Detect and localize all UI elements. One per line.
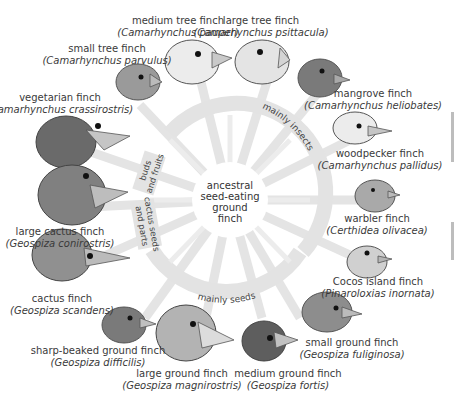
bird-large-ground-finch-icon: [156, 305, 234, 361]
finch-label-medium-ground: medium ground finch(Geospiza fortis): [234, 368, 341, 392]
bird-medium-tree-finch-icon: [165, 40, 232, 84]
finch-label-large-cactus: large cactus finch(Geospiza conirostris): [6, 226, 115, 250]
common-name: small tree finch: [42, 43, 171, 55]
ancestor-label-line: finch: [200, 213, 259, 224]
bird-warbler-finch-icon: [355, 180, 400, 212]
scientific-name: (Camarhynchus parvulus): [42, 55, 171, 67]
finch-label-woodpecker: woodpecker finch(Camarhynchus pallidus): [318, 148, 443, 172]
finch-label-cocos-island: Cocos island finch(Pinaroloxias inornata…: [321, 276, 434, 300]
common-name: small ground finch: [299, 337, 404, 349]
bird-cocos-island-finch-icon: [347, 246, 392, 278]
common-name: cactus finch: [10, 293, 114, 305]
common-name: warbler finch: [326, 213, 427, 225]
common-name: large tree finch: [193, 15, 328, 27]
finch-label-cactus: cactus finch(Geospiza scandens): [10, 293, 114, 317]
finch-label-large-tree: large tree finch(Camarhynchus psittacula…: [193, 15, 328, 39]
common-name: large cactus finch: [6, 226, 115, 238]
scientific-name: (Geospiza fortis): [234, 380, 341, 392]
common-name: woodpecker finch: [318, 148, 443, 160]
scientific-name: (Geospiza magnirostris): [122, 380, 242, 392]
scientific-name: (Geospiza conirostris): [6, 238, 115, 250]
finch-label-small-tree: small tree finch(Camarhynchus parvulus): [42, 43, 171, 67]
scientific-name: (Pinaroloxias inornata): [321, 288, 434, 300]
common-name: sharp-beaked ground finch: [31, 345, 166, 357]
ancestor-label-line: seed-eating: [200, 191, 259, 202]
finch-adaptive-radiation-diagram: mainly insects mainly seeds buds and fru…: [0, 0, 454, 395]
common-name: mangrove finch: [304, 88, 442, 100]
common-name: large ground finch: [122, 368, 242, 380]
scientific-name: (Certhidea olivacea): [326, 225, 427, 237]
scientific-name: (Camarhynchus heliobates): [304, 100, 442, 112]
finch-label-vegetarian: vegetarian finch(Camarhynchus crassirost…: [0, 92, 133, 116]
finch-label-mangrove: mangrove finch(Camarhynchus heliobates): [304, 88, 442, 112]
scientific-name: (Camarhynchus pallidus): [318, 160, 443, 172]
bird-medium-ground-finch-icon: [242, 321, 298, 361]
bird-large-cactus-finch-icon: [38, 165, 128, 225]
scientific-name: (Camarhynchus psittacula): [193, 27, 328, 39]
ancestor-label: ancestral seed-eating ground finch: [200, 180, 259, 224]
scientific-name: (Geospiza scandens): [10, 305, 114, 317]
scientific-name: (Camarhynchus crassirostris): [0, 104, 133, 116]
ancestor-label-line: ground: [200, 202, 259, 213]
common-name: medium ground finch: [234, 368, 341, 380]
ancestor-label-line: ancestral: [200, 180, 259, 191]
finch-label-large-ground: large ground finch(Geospiza magnirostris…: [122, 368, 242, 392]
common-name: Cocos island finch: [321, 276, 434, 288]
bird-woodpecker-finch-icon: [333, 112, 392, 144]
finch-label-small-ground: small ground finch(Geospiza fuliginosa): [299, 337, 404, 361]
bird-large-tree-finch-icon: [235, 40, 290, 84]
finch-label-warbler: warbler finch(Certhidea olivacea): [326, 213, 427, 237]
common-name: vegetarian finch: [0, 92, 133, 104]
finch-label-sharp-beaked-ground: sharp-beaked ground finch(Geospiza diffi…: [31, 345, 166, 369]
scientific-name: (Geospiza fuliginosa): [299, 349, 404, 361]
